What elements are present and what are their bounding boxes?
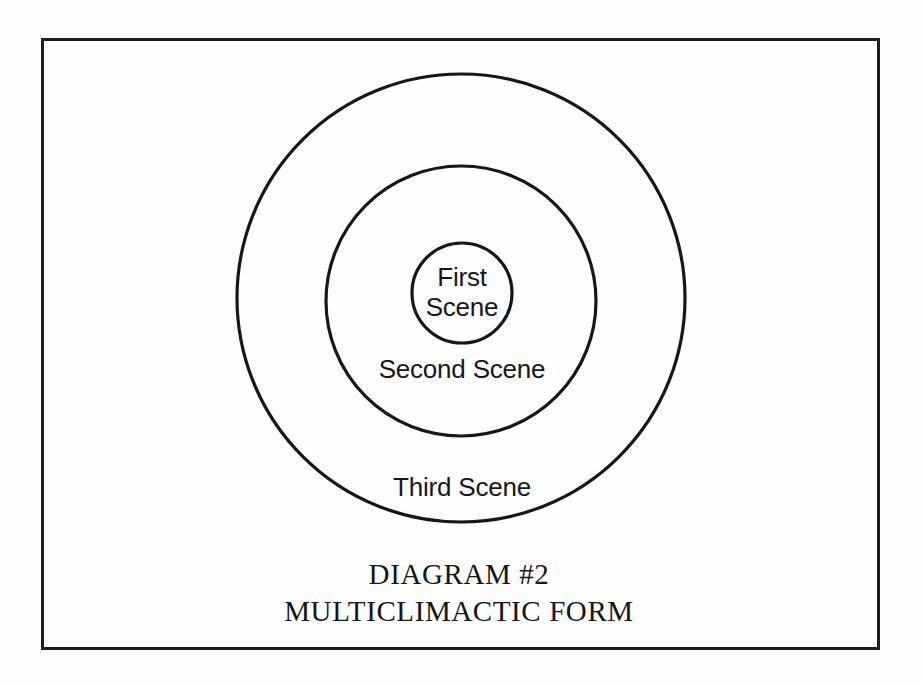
label-first-scene: First Scene <box>382 262 542 322</box>
label-second-scene: Second Scene <box>332 355 592 384</box>
label-first-scene-line1: First <box>437 262 487 292</box>
caption-title: DIAGRAM #2 <box>41 556 877 593</box>
diagram-page: First Scene Second Scene Third Scene DIA… <box>0 0 922 686</box>
caption-subtitle: MULTICLIMACTIC FORM <box>41 593 877 630</box>
diagram-caption: DIAGRAM #2 MULTICLIMACTIC FORM <box>41 556 877 630</box>
label-third-scene: Third Scene <box>352 473 572 502</box>
label-first-scene-line2: Scene <box>426 292 499 322</box>
